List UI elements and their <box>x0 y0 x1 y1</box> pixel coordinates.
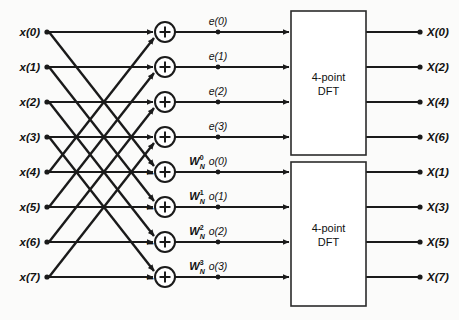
intermediate-node-dot <box>216 170 221 175</box>
input-label: x(7) <box>19 271 41 283</box>
input-label: x(4) <box>19 166 41 178</box>
twiddle-factor-label: WN1 <box>189 189 205 205</box>
dft-block-label-line2: DFT <box>318 85 340 97</box>
twiddle-subscript: N <box>200 268 206 275</box>
twiddle-base: WN0 <box>189 154 205 170</box>
fft-butterfly-diagram: −−−− 4-pointDFT4-pointDFT x(0)x(1)x(2)x(… <box>0 0 459 320</box>
cross-line-down <box>49 32 154 166</box>
input-node-dot <box>44 99 49 104</box>
intermediate-label: e(2) <box>209 85 228 97</box>
intermediate-node-dot <box>216 275 221 280</box>
adder-node <box>155 22 175 42</box>
twiddle-subscript: N <box>200 233 206 240</box>
intermediate-label: o(2) <box>209 225 228 237</box>
output-label: X(3) <box>426 201 449 213</box>
output-node-dot <box>417 169 422 174</box>
twiddle-superscript: 3 <box>200 259 204 266</box>
output-node-dot <box>417 29 422 34</box>
dft-block-label-line2: DFT <box>318 236 340 248</box>
intermediate-label: o(1) <box>209 190 228 202</box>
cross-line-up <box>49 73 154 207</box>
adder-minus-sign: − <box>146 236 154 251</box>
cross-line-down <box>49 67 154 201</box>
twiddle-factor-label: WN2 <box>189 224 205 240</box>
adder-nodes-group: −−−− <box>146 22 175 287</box>
output-node-dot <box>417 99 422 104</box>
output-node-dot <box>417 274 422 279</box>
input-label: x(0) <box>19 26 41 38</box>
adder-node <box>155 162 175 182</box>
output-label: X(6) <box>426 131 449 143</box>
input-node-dot <box>44 64 49 69</box>
output-node-dot <box>417 134 422 139</box>
dft-block-label-line1: 4-point <box>312 71 346 83</box>
dft-block: 4-pointDFT <box>291 11 366 155</box>
adder-node <box>155 57 175 77</box>
adder-node <box>155 92 175 112</box>
cross-line-up <box>49 143 154 277</box>
intermediate-label: e(3) <box>209 120 228 132</box>
adder-node <box>155 197 175 217</box>
twiddle-factor-label: WN0 <box>189 154 205 170</box>
dft-block-label-line1: 4-point <box>312 222 346 234</box>
input-label: x(5) <box>19 201 41 213</box>
input-node-dot <box>44 274 49 279</box>
dft-block-rect <box>291 162 366 306</box>
adder-minus-sign: − <box>146 166 154 181</box>
intermediate-label: o(3) <box>209 260 228 272</box>
input-label: x(3) <box>19 131 41 143</box>
intermediate-node-dot <box>216 135 221 140</box>
twiddle-base: WN1 <box>189 189 205 205</box>
intermediate-node-dot <box>216 100 221 105</box>
adder-minus-sign: − <box>146 201 154 216</box>
output-node-dot <box>417 204 422 209</box>
twiddle-factor-label: WN3 <box>189 259 205 275</box>
input-node-dot <box>44 204 49 209</box>
intermediate-label: e(0) <box>209 15 228 27</box>
input-node-dot <box>44 239 49 244</box>
cross-line-down <box>49 137 154 271</box>
output-node-dot <box>417 239 422 244</box>
adder-minus-sign: − <box>146 271 154 286</box>
intermediate-node-dot <box>216 240 221 245</box>
twiddle-subscript: N <box>200 198 206 205</box>
input-label: x(2) <box>19 96 41 108</box>
adder-node <box>155 267 175 287</box>
adder-node <box>155 127 175 147</box>
intermediate-node-dot <box>216 205 221 210</box>
intermediate-label: e(1) <box>209 50 228 62</box>
cross-line-down <box>49 102 154 236</box>
intermediate-label: o(0) <box>209 155 228 167</box>
twiddle-subscript: N <box>200 163 206 170</box>
input-node-dot <box>44 29 49 34</box>
input-node-dot <box>44 169 49 174</box>
output-label: X(7) <box>426 271 449 283</box>
dft-block: 4-pointDFT <box>291 162 366 306</box>
intermediate-node-dot <box>216 30 221 35</box>
twiddle-base: WN2 <box>189 224 205 240</box>
cross-line-up <box>49 38 154 172</box>
twiddle-superscript: 0 <box>200 154 204 161</box>
cross-line-up <box>49 108 154 242</box>
dft-blocks-group: 4-pointDFT4-pointDFT <box>291 11 366 306</box>
intermediate-node-dot <box>216 65 221 70</box>
output-node-dot <box>417 64 422 69</box>
adder-node <box>155 232 175 252</box>
output-label: X(5) <box>426 236 449 248</box>
output-label: X(2) <box>426 61 449 73</box>
dft-block-rect <box>291 11 366 155</box>
output-label: X(4) <box>426 96 449 108</box>
output-label: X(0) <box>426 26 449 38</box>
input-label: x(6) <box>19 236 41 248</box>
twiddle-superscript: 1 <box>200 189 204 196</box>
input-node-dot <box>44 134 49 139</box>
input-label: x(1) <box>19 61 41 73</box>
fft-signal-flow-svg: −−−− 4-pointDFT4-pointDFT x(0)x(1)x(2)x(… <box>0 0 459 320</box>
twiddle-base: WN3 <box>189 259 205 275</box>
output-label: X(1) <box>426 166 449 178</box>
twiddle-superscript: 2 <box>200 224 204 231</box>
